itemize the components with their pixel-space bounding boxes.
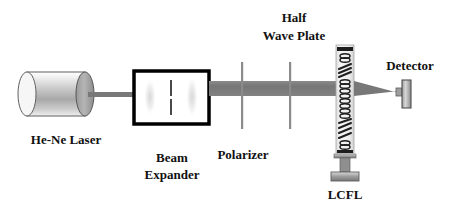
diagram-canvas: He-Ne Laser Beam Expander Polarizer Half… <box>0 0 450 210</box>
beam-expander <box>134 71 209 124</box>
detector-stub <box>396 88 402 96</box>
detector <box>396 80 411 108</box>
label-he-ne-laser: He-Ne Laser <box>31 132 102 147</box>
beam-expander-lens-1 <box>144 78 156 116</box>
detector-plate <box>402 80 411 108</box>
lcfl-cell <box>331 45 359 181</box>
label-half-wave-plate-line2: Wave Plate <box>263 28 326 43</box>
half-wave-plate-optic[interactable] <box>289 62 291 129</box>
converging-beam <box>354 81 399 96</box>
lcfl-collar <box>334 154 356 158</box>
beam-expander-lens-2 <box>186 76 198 118</box>
label-lcfl: LCFL <box>328 187 363 202</box>
label-detector: Detector <box>386 58 434 73</box>
lcfl-stem <box>340 158 350 172</box>
he-ne-laser <box>18 72 94 116</box>
input-beam <box>88 92 136 97</box>
label-beam-expander-line1: Beam <box>156 150 188 165</box>
expanded-beam <box>209 81 338 96</box>
label-half-wave-plate-line1: Half <box>282 10 307 25</box>
polarizer-optic[interactable] <box>241 62 243 129</box>
label-polarizer: Polarizer <box>217 147 268 162</box>
label-beam-expander-line2: Expander <box>145 167 200 182</box>
lcfl-foot <box>331 172 359 181</box>
optical-setup-diagram: He-Ne Laser Beam Expander Polarizer Half… <box>0 0 450 210</box>
beam-expander-aperture-upper <box>170 80 172 96</box>
laser-rear-cap <box>18 72 36 116</box>
beam-expander-aperture-lower <box>170 99 172 115</box>
